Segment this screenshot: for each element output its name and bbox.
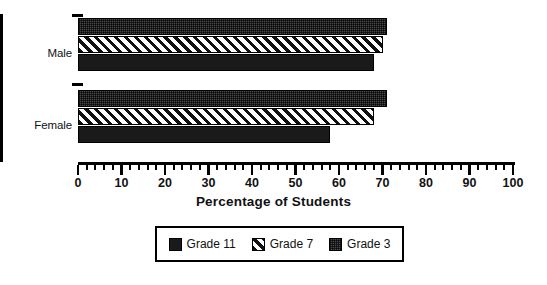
x-tick-minor bbox=[486, 165, 488, 170]
legend-item-grade-7: Grade 7 bbox=[252, 237, 313, 251]
x-tick-minor bbox=[495, 165, 497, 170]
x-tick-minor bbox=[399, 165, 401, 170]
x-tick-minor bbox=[86, 165, 88, 170]
x-tick-label: 60 bbox=[332, 176, 346, 190]
legend-swatch-grade-11-icon bbox=[169, 238, 182, 251]
x-tick-major bbox=[77, 165, 80, 175]
bar-female-grade-7 bbox=[78, 108, 374, 125]
x-tick-minor bbox=[442, 165, 444, 170]
x-tick-minor bbox=[477, 165, 479, 170]
x-tick-label: 0 bbox=[75, 176, 82, 190]
x-tick-minor bbox=[155, 165, 157, 170]
x-tick-label: 40 bbox=[245, 176, 259, 190]
x-tick-minor bbox=[129, 165, 131, 170]
x-tick-minor bbox=[190, 165, 192, 170]
x-tick-minor bbox=[434, 165, 436, 170]
legend-item-grade-11: Grade 11 bbox=[169, 237, 236, 251]
x-tick-label: 10 bbox=[115, 176, 129, 190]
x-tick-minor bbox=[347, 165, 349, 170]
category-labels: Male Female bbox=[0, 0, 72, 285]
x-tick-minor bbox=[234, 165, 236, 170]
x-tick-minor bbox=[199, 165, 201, 170]
category-label-female: Female bbox=[0, 119, 72, 131]
x-tick-minor bbox=[303, 165, 305, 170]
x-tick-label: 50 bbox=[289, 176, 303, 190]
y-axis-tick-top bbox=[72, 14, 83, 17]
x-tick-minor bbox=[181, 165, 183, 170]
x-tick-major bbox=[251, 165, 254, 175]
y-axis-tick-middle bbox=[72, 83, 83, 86]
x-tick-label: 70 bbox=[376, 176, 390, 190]
x-tick-major bbox=[120, 165, 123, 175]
x-tick-minor bbox=[355, 165, 357, 170]
legend-item-grade-3: Grade 3 bbox=[329, 237, 390, 251]
bar-male-grade-3 bbox=[78, 18, 387, 35]
legend-swatch-grade-3-icon bbox=[329, 238, 342, 251]
x-tick-minor bbox=[147, 165, 149, 170]
x-tick-minor bbox=[329, 165, 331, 170]
bar-male-grade-7 bbox=[78, 36, 383, 53]
x-tick-minor bbox=[451, 165, 453, 170]
x-tick-minor bbox=[503, 165, 505, 170]
x-tick-minor bbox=[94, 165, 96, 170]
x-tick-minor bbox=[103, 165, 105, 170]
x-tick-major bbox=[164, 165, 167, 175]
legend: Grade 11 Grade 7 Grade 3 bbox=[155, 226, 404, 262]
x-tick-minor bbox=[373, 165, 375, 170]
x-tick-minor bbox=[460, 165, 462, 170]
x-tick-minor bbox=[321, 165, 323, 170]
x-tick-major bbox=[512, 165, 515, 175]
x-tick-minor bbox=[225, 165, 227, 170]
x-tick-minor bbox=[242, 165, 244, 170]
x-tick-minor bbox=[286, 165, 288, 170]
x-tick-label: 90 bbox=[463, 176, 477, 190]
x-tick-minor bbox=[138, 165, 140, 170]
bar-female-grade-3 bbox=[78, 90, 387, 107]
x-tick-minor bbox=[416, 165, 418, 170]
x-tick-label: 30 bbox=[202, 176, 216, 190]
x-tick-minor bbox=[312, 165, 314, 170]
legend-label-grade-3: Grade 3 bbox=[347, 237, 390, 251]
x-tick-minor bbox=[260, 165, 262, 170]
x-tick-label: 100 bbox=[503, 176, 524, 190]
x-axis-line bbox=[78, 162, 515, 165]
bar-male-grade-11 bbox=[78, 54, 374, 71]
x-tick-major bbox=[338, 165, 341, 175]
x-tick-minor bbox=[112, 165, 114, 170]
x-tick-minor bbox=[408, 165, 410, 170]
x-tick-minor bbox=[268, 165, 270, 170]
x-tick-major bbox=[207, 165, 210, 175]
x-tick-minor bbox=[277, 165, 279, 170]
legend-swatch-grade-7-icon bbox=[252, 238, 265, 251]
x-tick-major bbox=[468, 165, 471, 175]
x-tick-minor bbox=[364, 165, 366, 170]
x-tick-major bbox=[294, 165, 297, 175]
legend-label-grade-11: Grade 11 bbox=[187, 237, 236, 251]
x-tick-minor bbox=[216, 165, 218, 170]
x-tick-minor bbox=[390, 165, 392, 170]
x-tick-major bbox=[381, 165, 384, 175]
x-tick-label: 20 bbox=[158, 176, 172, 190]
legend-label-grade-7: Grade 7 bbox=[270, 237, 313, 251]
bar-female-grade-11 bbox=[78, 126, 330, 143]
x-tick-major bbox=[425, 165, 428, 175]
x-tick-minor bbox=[173, 165, 175, 170]
x-tick-label: 80 bbox=[419, 176, 433, 190]
category-label-male: Male bbox=[0, 47, 72, 59]
bar-chart: Male Female 0102030405060708090100 Perce… bbox=[0, 0, 547, 285]
x-axis-title: Percentage of Students bbox=[0, 194, 547, 209]
